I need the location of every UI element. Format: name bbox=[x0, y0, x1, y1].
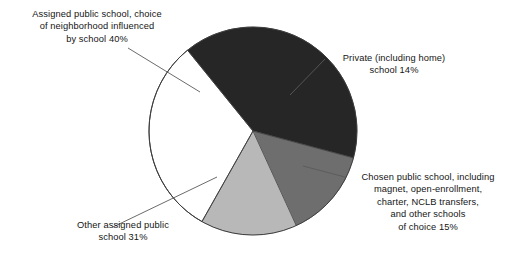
pie-chart-figure: Assigned public school, choice of neighb… bbox=[0, 0, 525, 256]
pie-label-other-assigned: Other assigned public school 31% bbox=[56, 219, 190, 244]
pie-slices bbox=[149, 27, 357, 235]
pie-label-chosen: Chosen public school, including magnet, … bbox=[342, 171, 514, 233]
pie-label-assigned-choice: Assigned public school, choice of neighb… bbox=[6, 8, 188, 45]
pie-label-private: Private (including home) school 14% bbox=[329, 52, 459, 77]
